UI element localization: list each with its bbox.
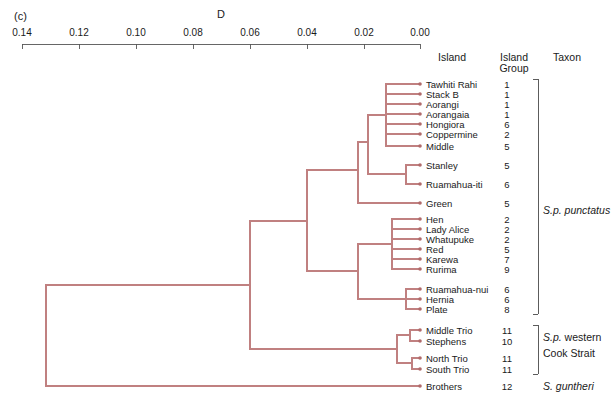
- dendrogram-tip-markers: [418, 82, 422, 388]
- taxon-label-cook-strait-line1: S.p. western: [543, 331, 601, 343]
- tip-label-island: Ruamahua-iti: [426, 179, 483, 190]
- taxon-label-punctatus: S.p. punctatus: [543, 204, 610, 216]
- tip-label-group: 5: [504, 141, 509, 152]
- taxon-label-guntheri: S. guntheri: [543, 380, 594, 392]
- taxon-label-cook-strait-genus: S.p.: [543, 331, 565, 343]
- tip-label-group: 10: [502, 336, 513, 347]
- tip-label-group: 11: [502, 325, 512, 336]
- tip-label-island: Middle Trio: [426, 325, 472, 336]
- tip-label-island: North Trio: [426, 353, 468, 364]
- tip-label-group: 12: [502, 381, 513, 392]
- tip-label-island: Stanley: [426, 160, 458, 171]
- tip-label-island: Brothers: [426, 381, 462, 392]
- tip-label-group: 9: [504, 264, 509, 275]
- bracket-cook-strait: [533, 325, 538, 374]
- axis-line-group: [22, 44, 420, 49]
- tip-label-island: Stephens: [426, 336, 466, 347]
- tip-label-island: Coppermine: [426, 129, 478, 140]
- taxon-brackets: [533, 79, 538, 374]
- figure-root: (c) D 0.14 0.12 0.10 0.08 0.06 0.04 0.02…: [0, 0, 612, 401]
- tip-label-island: Plate: [426, 304, 448, 315]
- tip-label-group: 6: [504, 179, 509, 190]
- tip-label-group: 11: [502, 353, 512, 364]
- tip-label-island: Rurima: [426, 264, 457, 275]
- taxon-label-cook-strait-qualifier: western: [565, 331, 602, 343]
- tip-label-group: 8: [504, 304, 509, 315]
- dendrogram-plot: [0, 0, 612, 401]
- tip-label-group: 5: [504, 160, 509, 171]
- tip-label-group: 2: [504, 129, 509, 140]
- tip-label-group: 11: [502, 364, 512, 375]
- bracket-punctatus: [533, 79, 538, 314]
- tip-label-group: 5: [504, 198, 509, 209]
- tip-label-island: Green: [426, 198, 452, 209]
- tip-label-island: South Trio: [426, 364, 469, 375]
- taxon-label-cook-strait-line2: Cook Strait: [543, 347, 595, 359]
- dendrogram-branches: [46, 84, 420, 386]
- tip-label-island: Middle: [426, 141, 454, 152]
